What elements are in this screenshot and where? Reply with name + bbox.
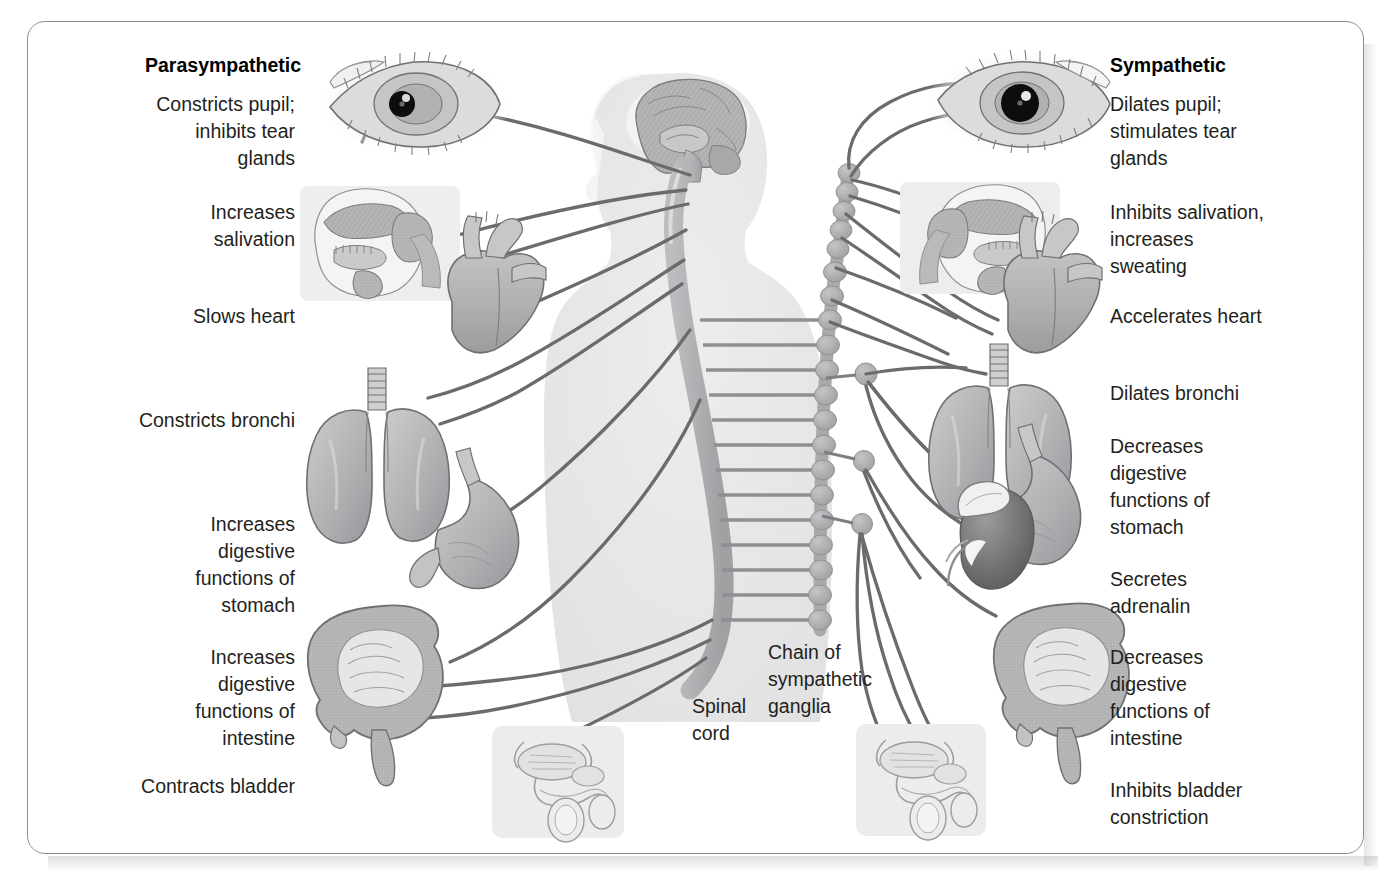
figure-page: Parasympathetic Sympathetic Constricts p…: [0, 0, 1385, 895]
kidney-with-adrenal-gland-icon: [946, 482, 1034, 589]
label-decreases-digestive-stomach: Decreases digestive functions of stomach: [1110, 433, 1320, 541]
label-inhibits-salivation: Inhibits salivation, increases sweating: [1110, 199, 1325, 280]
label-dilates-bronchi: Dilates bronchi: [1110, 380, 1320, 407]
label-increases-digestive-stomach: Increases digestive functions of stomach: [115, 511, 295, 619]
intestine-right-icon: [994, 604, 1129, 784]
label-decreases-digestive-intestine: Decreases digestive functions of intesti…: [1110, 644, 1320, 752]
label-accelerates-heart: Accelerates heart: [1110, 303, 1320, 330]
label-contracts-bladder: Contracts bladder: [95, 773, 295, 800]
sympathetic-ganglia-label: Chain of sympathetic ganglia: [768, 639, 928, 720]
label-slows-heart: Slows heart: [115, 303, 295, 330]
head-sagittal-salivary-left-icon: [300, 186, 460, 301]
label-inhibits-bladder-constriction: Inhibits bladder constriction: [1110, 777, 1325, 831]
label-secretes-adrenalin: Secretes adrenalin: [1110, 566, 1320, 620]
sympathetic-ganglia-chain: [809, 164, 878, 631]
intestine-left-icon: [308, 606, 443, 786]
bladder-right-icon: [856, 724, 986, 840]
label-constricts-pupil: Constricts pupil; inhibits tear glands: [115, 91, 295, 172]
bladder-left-icon: [492, 726, 624, 842]
heading-sympathetic: Sympathetic: [1110, 53, 1310, 77]
label-increases-digestive-intestine: Increases digestive functions of intesti…: [115, 644, 295, 752]
label-constricts-bronchi: Constricts bronchi: [95, 407, 295, 434]
label-increases-salivation: Increases salivation: [115, 199, 295, 253]
heading-parasympathetic: Parasympathetic: [145, 53, 315, 77]
label-dilates-pupil: Dilates pupil; stimulates tear glands: [1110, 91, 1320, 172]
lungs-left-icon: [307, 368, 450, 543]
eye-constricted-pupil-icon: [319, 52, 511, 157]
